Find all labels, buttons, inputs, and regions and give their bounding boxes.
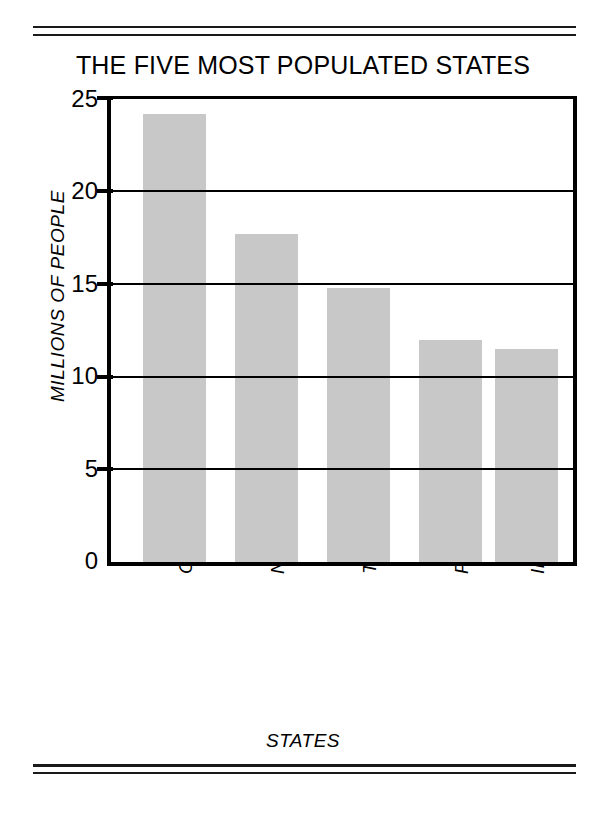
y-tick-mark-10 [97, 375, 113, 379]
bar-pennsylvania[interactable] [419, 340, 482, 562]
gridline-25 [111, 96, 573, 99]
gridline-20 [111, 190, 573, 192]
y-tick-mark-25 [97, 96, 113, 100]
bottom-rule-upper [33, 764, 576, 767]
y-tick-label: 5 [38, 457, 98, 481]
bar-illinois[interactable] [495, 349, 558, 562]
y-tick-mark-20 [97, 189, 113, 193]
bottom-rule-lower [33, 772, 576, 774]
x-axis-category-labels: CALIFORNIA NEW YORK TEXAS PENNSYLVANIA I… [111, 562, 573, 732]
y-tick-mark-5 [97, 467, 113, 471]
bar-california[interactable] [143, 114, 206, 562]
y-tick-label: 20 [38, 179, 98, 203]
top-rule-upper [33, 26, 576, 28]
gridline-5 [111, 468, 573, 470]
gridline-10 [111, 376, 573, 378]
top-rule-lower [33, 34, 576, 36]
plot-area [111, 99, 573, 562]
y-axis-tick-labels: 25 20 15 10 5 0 [30, 99, 98, 562]
bar-texas[interactable] [327, 288, 390, 562]
y-tick-label: 10 [38, 364, 98, 388]
bars-layer [111, 99, 573, 562]
chart-page: THE FIVE MOST POPULATED STATES MILLIONS … [0, 0, 606, 813]
y-tick-label: 0 [38, 549, 98, 573]
right-frame-line [573, 96, 577, 565]
y-tick-label: 15 [38, 272, 98, 296]
chart-title: THE FIVE MOST POPULATED STATES [0, 51, 606, 80]
y-tick-mark-15 [97, 282, 113, 286]
gridline-15 [111, 283, 573, 285]
y-tick-label: 25 [38, 87, 98, 111]
x-axis-title: STATES [0, 730, 606, 752]
